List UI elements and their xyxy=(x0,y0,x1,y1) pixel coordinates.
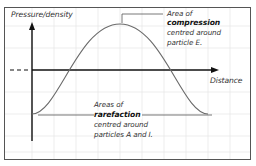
rarefaction-line4: particles A and I. xyxy=(94,131,153,139)
wave-diagram: Pressure/density Distance Area of compre… xyxy=(0,0,256,166)
compression-leader-line xyxy=(122,14,163,23)
y-axis-label: Pressure/density xyxy=(11,11,73,19)
compression-line2: compression xyxy=(167,19,220,27)
rarefaction-line3: centred around xyxy=(94,121,148,129)
x-axis-label: Distance xyxy=(210,77,242,85)
rarefaction-line2: rarefaction xyxy=(94,111,142,119)
rarefaction-line1: Areas of xyxy=(94,101,123,109)
compression-line3: centred around xyxy=(167,29,221,37)
compression-line4: particle E. xyxy=(167,39,202,47)
compression-line1: Area of xyxy=(167,10,192,18)
x-axis-arrowhead-icon xyxy=(211,67,219,73)
